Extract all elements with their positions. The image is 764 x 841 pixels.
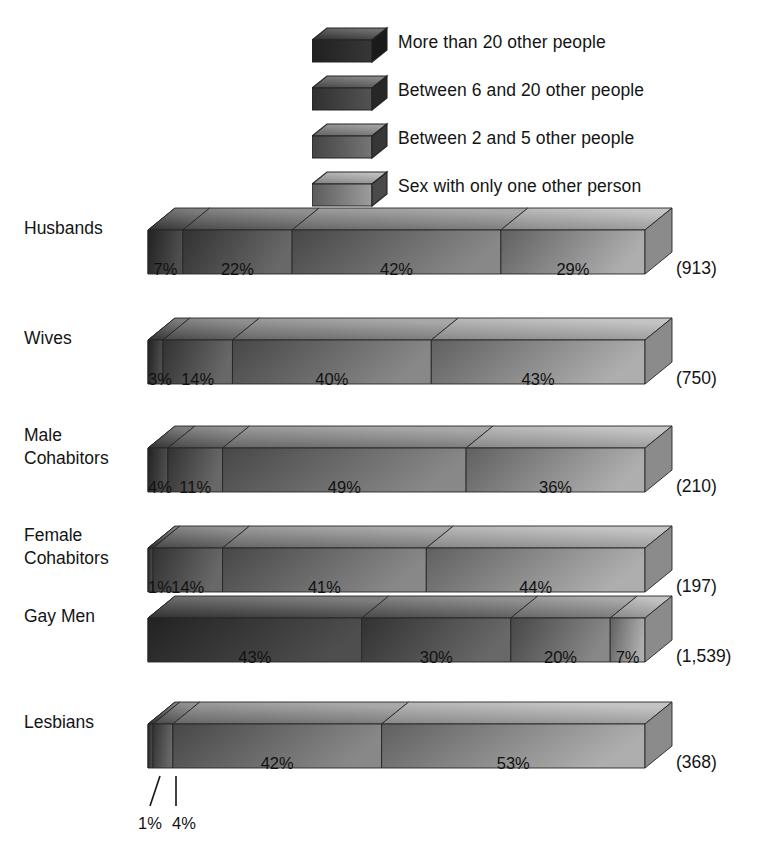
callout-label-first: 1% bbox=[138, 814, 162, 833]
bar-segment-front[interactable] bbox=[148, 618, 362, 662]
bar-segment-top bbox=[426, 526, 672, 548]
row-sample-size: (210) bbox=[676, 476, 717, 497]
stacked-bar[interactable] bbox=[148, 426, 672, 504]
bar-graphic bbox=[148, 596, 676, 666]
bar-segment-front[interactable] bbox=[148, 448, 168, 492]
row-category-label-line: Male bbox=[24, 424, 144, 447]
bar-graphic bbox=[148, 426, 676, 496]
row-category-label-line: Gay Men bbox=[24, 605, 144, 628]
bar-graphic bbox=[148, 702, 676, 772]
chart-row: Husbands7%22%42%29%(913) bbox=[0, 200, 764, 296]
bar-segment-front[interactable] bbox=[362, 618, 511, 662]
row-category-label-line: Cohabitors bbox=[24, 447, 144, 470]
bar-segment-front[interactable] bbox=[163, 340, 233, 384]
bar-segment-top bbox=[431, 318, 672, 340]
bar-segment-front[interactable] bbox=[173, 724, 382, 768]
bar-segment-front[interactable] bbox=[431, 340, 645, 384]
legend-item-label: Sex with only one other person bbox=[398, 176, 641, 197]
bar-segment-top bbox=[382, 702, 672, 724]
bar-segment-top bbox=[148, 596, 389, 618]
legend-swatch-box-icon bbox=[312, 74, 390, 114]
bar-graphic bbox=[148, 318, 676, 388]
legend-item-label: More than 20 other people bbox=[398, 32, 606, 53]
chart-row: Lesbians42%53%(368) 1%4% bbox=[0, 694, 764, 790]
stacked-bar[interactable] bbox=[148, 208, 672, 286]
legend-swatch-box-icon bbox=[312, 26, 390, 66]
legend-item-label: Between 6 and 20 other people bbox=[398, 80, 644, 101]
bar-segment-front[interactable] bbox=[148, 548, 153, 592]
legend-swatch-box-icon bbox=[312, 122, 390, 162]
stacked-bar[interactable] bbox=[148, 596, 672, 674]
bar-segment-front[interactable] bbox=[223, 548, 427, 592]
bar-segment-front[interactable] bbox=[148, 724, 153, 768]
row-category-label-line: Female bbox=[24, 524, 144, 547]
bar-segment-front[interactable] bbox=[153, 724, 173, 768]
bar-segment-top bbox=[501, 208, 672, 230]
bar-segment-front[interactable] bbox=[292, 230, 501, 274]
row-category-label-line: Wives bbox=[24, 327, 144, 350]
row-sample-size: (1,539) bbox=[676, 646, 731, 667]
bar-segment-top bbox=[292, 208, 528, 230]
legend-item[interactable]: More than 20 other people bbox=[312, 24, 752, 72]
bar-segment-front[interactable] bbox=[426, 548, 645, 592]
bar-graphic bbox=[148, 208, 676, 278]
legend-item[interactable]: Between 2 and 5 other people bbox=[312, 120, 752, 168]
bar-segment-top bbox=[232, 318, 458, 340]
chart-row: Gay Men43%30%20%7%(1,539) bbox=[0, 588, 764, 684]
stacked-bar[interactable] bbox=[148, 318, 672, 396]
legend-item[interactable]: Between 6 and 20 other people bbox=[312, 72, 752, 120]
bar-segment-front[interactable] bbox=[466, 448, 645, 492]
row-category-label-line: Husbands bbox=[24, 217, 144, 240]
segment-callouts: 1%4% bbox=[148, 780, 408, 838]
chart-legend: More than 20 other people Between 6 and … bbox=[312, 24, 752, 216]
row-category-label: Wives bbox=[24, 327, 144, 350]
bar-segment-front[interactable] bbox=[610, 618, 645, 662]
legend-item-label: Between 2 and 5 other people bbox=[398, 128, 634, 149]
row-category-label: Lesbians bbox=[24, 711, 144, 734]
bar-segment-top bbox=[223, 426, 494, 448]
bar-segment-top bbox=[466, 426, 672, 448]
bar-segment-front[interactable] bbox=[168, 448, 223, 492]
row-sample-size: (750) bbox=[676, 368, 717, 389]
callout-label-second: 4% bbox=[172, 814, 196, 833]
row-sample-size: (368) bbox=[676, 752, 717, 773]
chart-canvas: More than 20 other people Between 6 and … bbox=[0, 0, 764, 841]
bar-segment-front[interactable] bbox=[183, 230, 292, 274]
bar-segment-top bbox=[362, 596, 538, 618]
row-category-label: FemaleCohabitors bbox=[24, 524, 144, 570]
bar-segment-front[interactable] bbox=[148, 340, 163, 384]
bar-segment-front[interactable] bbox=[148, 230, 183, 274]
bar-segment-front[interactable] bbox=[511, 618, 610, 662]
row-category-label-line: Cohabitors bbox=[24, 547, 144, 570]
row-category-label: MaleCohabitors bbox=[24, 424, 144, 470]
row-category-label: Gay Men bbox=[24, 605, 144, 628]
bar-segment-front[interactable] bbox=[153, 548, 223, 592]
chart-row: Wives3%14%40%43%(750) bbox=[0, 310, 764, 406]
bar-segment-front[interactable] bbox=[501, 230, 645, 274]
stacked-bar[interactable] bbox=[148, 702, 672, 780]
row-category-label: Husbands bbox=[24, 217, 144, 240]
row-category-label-line: Lesbians bbox=[24, 711, 144, 734]
bar-segment-top bbox=[173, 702, 409, 724]
bar-graphic bbox=[148, 526, 676, 596]
bar-segment-front[interactable] bbox=[382, 724, 645, 768]
chart-row: MaleCohabitors4%11%49%36%(210) bbox=[0, 418, 764, 514]
bar-segment-front[interactable] bbox=[232, 340, 431, 384]
row-sample-size: (913) bbox=[676, 258, 717, 279]
bar-segment-top bbox=[223, 526, 454, 548]
bar-segment-front[interactable] bbox=[223, 448, 467, 492]
